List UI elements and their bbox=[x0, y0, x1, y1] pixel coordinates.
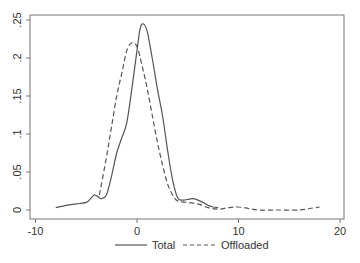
series-layer bbox=[56, 24, 320, 210]
y-tick-label: .1 bbox=[11, 129, 23, 138]
x-axis: -1001020 bbox=[28, 219, 347, 237]
x-tick-label: -10 bbox=[28, 225, 44, 237]
y-tick-label: .05 bbox=[11, 164, 23, 179]
x-tick-label: 20 bbox=[334, 225, 346, 237]
x-tick-label: 0 bbox=[134, 225, 140, 237]
density-chart: -1001020 0.05.1.15.2.25 Total Offloaded bbox=[0, 0, 360, 263]
x-tick-label: 10 bbox=[232, 225, 244, 237]
y-tick-label: 0 bbox=[11, 207, 23, 213]
legend-total-label: Total bbox=[152, 239, 175, 251]
legend-offloaded-label: Offloaded bbox=[221, 239, 269, 251]
y-tick-label: .15 bbox=[11, 88, 23, 103]
plot-frame bbox=[30, 15, 344, 219]
legend: Total Offloaded bbox=[115, 239, 269, 251]
series-line-total bbox=[56, 24, 218, 208]
y-tick-label: .2 bbox=[11, 53, 23, 62]
y-axis: 0.05.1.15.2.25 bbox=[11, 12, 30, 213]
series-line-offloaded bbox=[99, 43, 319, 211]
y-tick-label: .25 bbox=[11, 12, 23, 27]
